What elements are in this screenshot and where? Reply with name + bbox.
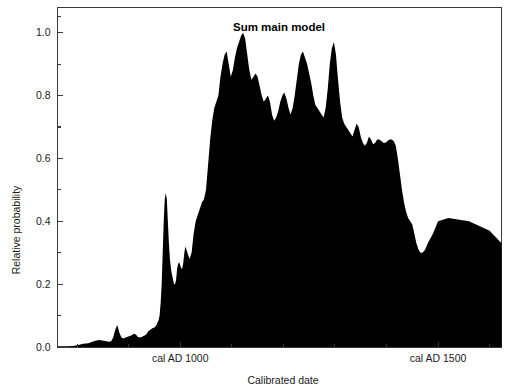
y-tick-label: 1.0 — [36, 26, 51, 38]
x-tick-label: cal AD 1000 — [152, 352, 209, 364]
x-axis-title: Calibrated date — [247, 374, 318, 386]
plot-title: Sum main model — [233, 21, 325, 33]
y-tick-label: 0.4 — [36, 215, 51, 227]
sum-main-model-plot: 0.00.20.40.60.81.0 cal AD 1000cal AD 150… — [0, 0, 511, 389]
y-axis-tick-labels: 0.00.20.40.60.81.0 — [36, 26, 51, 352]
x-axis-tick-labels: cal AD 1000cal AD 1500 — [152, 352, 467, 364]
y-axis-title: Relative probability — [10, 185, 22, 274]
y-tick-label: 0.8 — [36, 89, 51, 101]
summed-probability-area — [58, 33, 502, 347]
y-tick-label: 0.6 — [36, 152, 51, 164]
y-tick-label: 0.0 — [36, 341, 51, 353]
y-tick-label: 0.2 — [36, 278, 51, 290]
chart-figure: 0.00.20.40.60.81.0 cal AD 1000cal AD 150… — [0, 0, 511, 389]
y-axis-ticks — [58, 17, 64, 347]
x-tick-label: cal AD 1500 — [410, 352, 467, 364]
